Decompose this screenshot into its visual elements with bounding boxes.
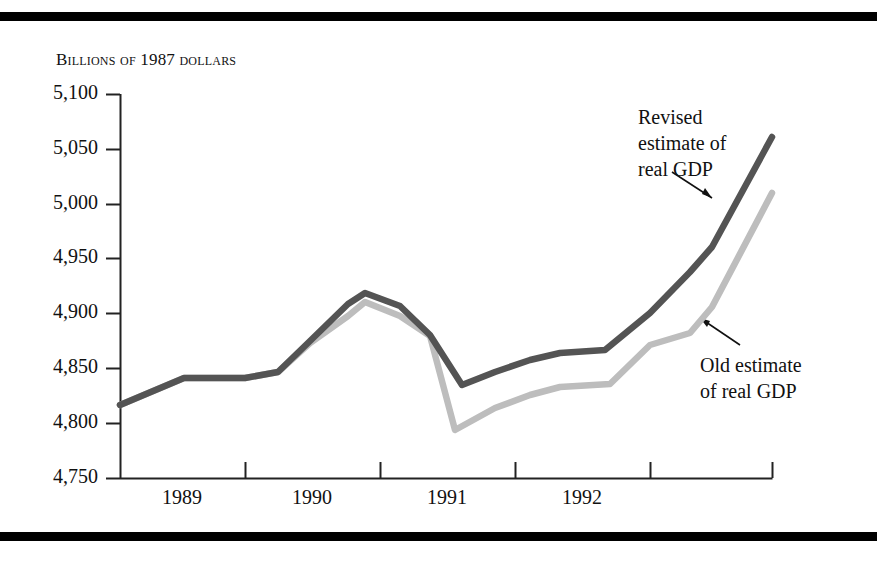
annotation-line: estimate of bbox=[638, 130, 726, 156]
y-axis-tick-label: 5,100 bbox=[24, 81, 98, 104]
chart-plot-area bbox=[0, 0, 877, 564]
x-axis-tick-label: 1989 bbox=[122, 486, 242, 509]
x-axis-ticks bbox=[246, 462, 773, 478]
x-axis-tick-label: 1992 bbox=[522, 486, 642, 509]
y-axis-tick-label: 4,800 bbox=[24, 410, 98, 433]
y-axis-tick-label: 5,000 bbox=[24, 191, 98, 214]
figure-panel: Billions of 1987 dollars 4,7504,8004,850… bbox=[0, 0, 877, 564]
annotation-line: Revised bbox=[638, 104, 726, 130]
series-line-old-estimate bbox=[120, 193, 772, 430]
y-axis-tick-label: 5,050 bbox=[24, 136, 98, 159]
y-axis-tick-label: 4,950 bbox=[24, 245, 98, 268]
y-axis-tick-label: 4,750 bbox=[24, 465, 98, 488]
annotation-line: of real GDP bbox=[700, 378, 802, 404]
y-axis-tick-label: 4,900 bbox=[24, 300, 98, 323]
revised-estimate-label: Revisedestimate ofreal GDP bbox=[638, 104, 726, 182]
old-estimate-label: Old estimateof real GDP bbox=[700, 352, 802, 404]
y-axis-ticks bbox=[106, 95, 120, 479]
revised-leader-arrowhead bbox=[702, 188, 712, 198]
x-axis-tick-label: 1991 bbox=[387, 486, 507, 509]
annotation-line: Old estimate bbox=[700, 352, 802, 378]
x-axis-tick-label: 1990 bbox=[252, 486, 372, 509]
y-axis-tick-label: 4,850 bbox=[24, 355, 98, 378]
annotation-line: real GDP bbox=[638, 156, 726, 182]
